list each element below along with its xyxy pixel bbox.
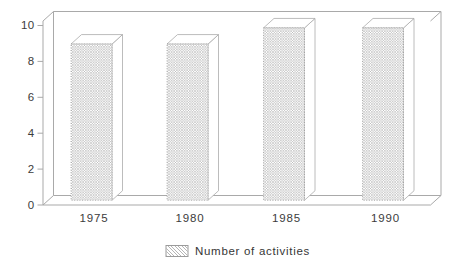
bar-front-face — [167, 44, 208, 200]
bar-1980 — [167, 35, 219, 201]
bar-1985 — [264, 18, 316, 200]
y-tick-label: 2 — [28, 163, 35, 175]
x-category-label: 1990 — [371, 212, 400, 224]
y-tick-label: 6 — [28, 91, 35, 103]
floor-right-depth-edge — [431, 196, 442, 206]
bar-side-face — [305, 18, 316, 200]
y-tick-label: 8 — [28, 55, 35, 67]
legend-label: Number of activities — [195, 245, 310, 257]
bar-side-face — [112, 35, 123, 201]
x-category-label: 1975 — [80, 212, 109, 224]
y-tick-label: 0 — [28, 199, 35, 211]
floor-left-depth-edge — [43, 196, 54, 206]
legend: Number of activities — [165, 245, 310, 257]
bar-side-face — [208, 35, 219, 201]
bar-side-face — [404, 18, 415, 200]
y-tick-label: 4 — [28, 127, 35, 139]
bar-front-face — [71, 44, 112, 200]
chart-figure: 02468101975198019851990 Number of activi… — [0, 0, 463, 276]
legend-swatch-hatched-icon — [165, 245, 188, 257]
top-left-depth-edge — [43, 12, 54, 22]
bar-1990 — [363, 18, 415, 200]
x-category-label: 1985 — [272, 212, 301, 224]
bar-1975 — [71, 35, 123, 201]
x-category-label: 1980 — [176, 212, 205, 224]
top-right-depth-edge — [431, 12, 442, 22]
bar-chart-3d: 02468101975198019851990 — [0, 0, 463, 240]
y-tick-label: 10 — [21, 19, 34, 31]
bar-front-face — [264, 28, 305, 200]
bar-front-face — [363, 28, 404, 200]
